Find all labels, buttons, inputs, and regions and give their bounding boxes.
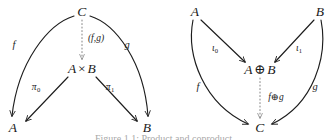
oplus-operator-icon: ⊕ xyxy=(253,62,268,77)
edge-label-pairing: (f,g) xyxy=(88,34,104,44)
edge-label-iota0: ι0 xyxy=(212,44,218,54)
node-product-AxB-right: B xyxy=(87,61,96,76)
node-coproduct-AoB-left: A xyxy=(244,62,253,77)
edge-label-pi1: π1 xyxy=(106,83,114,93)
edge-f-right-arrow xyxy=(192,20,248,124)
node-coproduct-AoB-right: B xyxy=(267,62,276,77)
edge-label-copairing: f⊕g xyxy=(268,93,283,103)
edge-label-iota0-subscript: 0 xyxy=(215,47,219,54)
edge-label-iota1-subscript: 1 xyxy=(299,47,303,54)
node-coproduct-B: B xyxy=(316,5,325,19)
edge-label-f: f xyxy=(13,40,16,51)
edge-iota0-arrow xyxy=(201,20,245,62)
diagram-vector-layer xyxy=(0,0,327,140)
figure-root: C A×B A B f (f,g) g π0 π1 A B A⊕B C ι0 ι… xyxy=(0,0,327,140)
edge-label-f-right: f xyxy=(197,82,200,93)
node-coproduct-A: A xyxy=(191,5,200,19)
edge-iota1-arrow xyxy=(275,20,314,62)
edge-label-iota1: ι1 xyxy=(296,44,302,54)
figure-caption: Figure 1.1: Product and coproduct xyxy=(0,133,327,140)
edge-label-pi0: π0 xyxy=(32,83,40,93)
node-product-C: C xyxy=(77,5,86,19)
edge-f-arrow xyxy=(12,16,74,116)
edge-label-pi1-subscript: 1 xyxy=(111,86,115,93)
node-coproduct-AoB: A⊕B xyxy=(244,63,276,77)
edge-g-right-arrow xyxy=(272,20,323,124)
times-operator-icon: × xyxy=(77,61,88,76)
edge-label-g: g xyxy=(124,40,129,51)
edge-pi1-arrow xyxy=(96,77,137,121)
node-product-AxB: A×B xyxy=(68,62,96,76)
edge-label-g-right: g xyxy=(312,82,317,93)
edge-label-pi0-subscript: 0 xyxy=(37,86,41,93)
node-product-AxB-left: A xyxy=(68,61,77,76)
